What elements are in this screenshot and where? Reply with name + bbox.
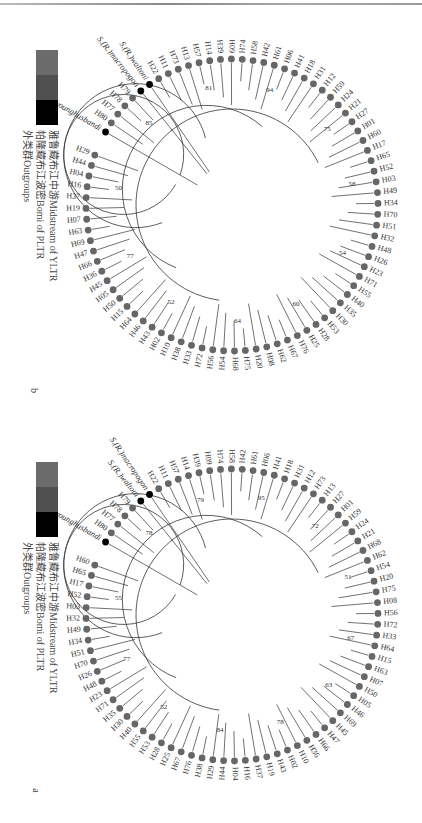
haplotype-tip-marker [350,282,357,289]
haplotype-tip-marker [140,318,147,325]
bootstrap-value: 60 [293,300,301,308]
haplotype-tip-marker [281,65,288,72]
haplotype-tip-marker [90,248,97,255]
haplotype-tip-marker [373,588,380,595]
haplotype-tip-marker [365,663,372,670]
haplotype-tip-marker [149,324,156,331]
tip-label: H52 [379,162,394,174]
haplotype-tip-marker [185,472,192,479]
outgroup-tip-marker [137,498,144,505]
swatch-pltr [36,75,58,100]
bootstrap-value: 85 [145,119,153,127]
haplotype-tip-marker [158,329,165,336]
haplotype-tip-marker [165,480,172,487]
tip-label: H54 [375,560,391,573]
outgroup-tip-marker [102,539,109,546]
haplotype-tip-marker [94,668,101,675]
bootstrap-value: 52 [160,703,168,711]
haplotype-tip-marker [209,346,216,353]
haplotype-tip-marker [155,75,162,82]
haplotype-tip-marker [209,756,216,763]
haplotype-tip-marker [342,110,349,117]
haplotype-tip-marker [371,168,378,175]
haplotype-tip-marker [271,62,278,69]
haplotype-tip-marker [271,472,278,479]
haplotype-tip-marker [260,469,267,476]
bootstrap-value: 52 [167,298,175,306]
bootstrap-value: 81 [205,84,213,92]
haplotype-tip-marker [335,511,342,518]
haplotype-tip-marker [196,59,203,66]
swatch-yltr [36,50,58,75]
haplotype-tip-marker [335,101,342,108]
haplotype-tip-marker [124,303,131,310]
haplotype-tip-marker [368,157,375,164]
outgroup-tip-marker [102,129,109,136]
haplotype-tip-marker [188,752,195,759]
haplotype-tip-marker [116,705,123,712]
haplotype-tip-marker [301,75,308,82]
tip-label: H54 [217,356,227,370]
tip-label: H13 [179,45,192,61]
legend-label-yltr: 雅鲁藏布江中游Midstream of YLTR [47,542,60,742]
haplotype-tip-marker [199,344,206,351]
tip-label: H09 [203,450,214,465]
haplotype-tip-marker [361,263,368,270]
haplotype-tip-marker [228,56,235,63]
haplotype-tip-marker [263,343,270,350]
swatch-outgroups [36,100,58,125]
tip-label: H65 [375,150,391,163]
haplotype-tip-marker [349,118,356,125]
haplotype-tip-marker [114,521,121,528]
haplotype-tip-marker [371,232,378,239]
haplotype-tip-marker [361,673,368,680]
tip-label: H08 [383,596,397,606]
tip-label: H41 [271,455,284,471]
panel-letter-a: a [31,788,42,792]
legend-label-yltr: 雅鲁藏布江中游Midstream of YLTR [47,130,60,330]
haplotype-tip-marker [344,291,351,298]
tip-label: H09 [227,39,236,53]
haplotype-tip-marker [274,750,281,757]
haplotype-tip-marker [375,200,382,207]
bootstrap-value: 78 [277,718,285,726]
haplotype-tip-marker [129,505,136,512]
haplotype-tip-marker [83,205,90,212]
swatch-yltr [36,462,58,487]
tip-label: H04 [231,767,240,781]
tip-label: H02 [286,754,300,770]
haplotype-tip-marker [175,66,182,73]
haplotype-tip-marker [188,342,195,349]
haplotype-tip-marker [239,466,246,473]
tip-label: H58 [227,449,236,463]
tip-label: H62 [371,548,387,562]
haplotype-tip-marker [231,758,238,765]
haplotype-tip-marker [284,337,291,344]
haplotype-tip-marker [337,299,344,306]
haplotype-tip-marker [228,466,235,473]
bootstrap-value: 77 [123,655,131,663]
bootstrap-value: 84 [216,726,224,734]
haplotype-tip-marker [375,610,382,617]
legend-labels: 雅鲁藏布江中游Midstream of YLTR 帕隆藏布江波密Bomi of … [21,130,60,330]
haplotype-tip-marker [364,557,371,564]
tip-label: H51 [382,221,397,232]
tip-label: H72 [383,620,397,630]
haplotype-tip-marker [344,701,351,708]
legend-swatches [36,50,58,125]
haplotype-tip-marker [85,637,92,644]
haplotype-tip-marker [369,653,376,660]
haplotype-tip-marker [250,467,257,474]
haplotype-tip-marker [114,111,121,118]
haplotype-tip-marker [91,562,98,569]
haplotype-tip-marker [350,692,357,699]
haplotype-tip-marker [253,756,260,763]
haplotype-tip-marker [373,178,380,185]
haplotype-tip-marker [83,216,90,223]
bootstrap-value: 54 [339,249,347,257]
haplotype-tip-marker [239,56,246,63]
haplotype-tip-marker [329,717,336,724]
haplotype-tip-marker [83,615,90,622]
haplotype-tip-marker [98,268,105,275]
haplotype-tip-marker [354,538,361,545]
